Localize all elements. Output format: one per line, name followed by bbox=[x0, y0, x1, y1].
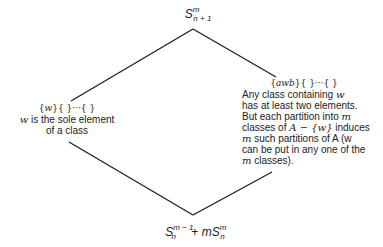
line-after: induces bbox=[333, 122, 370, 133]
right-desc-line: m such partitions of A (w bbox=[242, 133, 382, 144]
right-desc-line: can be put in any one of the bbox=[242, 144, 382, 155]
formula-base: S bbox=[185, 7, 193, 21]
line-text: classes of bbox=[242, 122, 289, 133]
set-var: awb bbox=[276, 78, 295, 88]
term2-coef: m bbox=[202, 225, 212, 239]
left-desc-line1: w is the sole element bbox=[12, 114, 122, 125]
edge-top-left bbox=[71, 29, 193, 101]
set-rest: }{ }···{ } bbox=[295, 78, 338, 88]
line-var: w bbox=[336, 89, 345, 100]
desc-text: is the sole element bbox=[28, 114, 114, 125]
term1-subscript: n bbox=[171, 232, 175, 241]
desc-var: w bbox=[20, 114, 29, 125]
line-var: A − {w} bbox=[289, 122, 332, 133]
line-text: Any class containing bbox=[242, 89, 336, 100]
right-set-notation: {awb}{ }···{ } bbox=[254, 78, 354, 89]
right-node: {awb}{ }···{ } Any class containing w ha… bbox=[242, 78, 382, 166]
edge-left-bottom bbox=[69, 142, 193, 215]
right-desc-line: m classes). bbox=[242, 155, 382, 166]
line-text: can be put in any one of the bbox=[242, 144, 365, 155]
left-node: {w}{ }···{ } w is the sole element of a … bbox=[12, 103, 122, 136]
line-text: has at least two elements. bbox=[242, 100, 358, 111]
edge-top-right bbox=[193, 29, 276, 77]
set-rest: }{ }···{ } bbox=[52, 103, 95, 113]
formula-subscript: n + 1 bbox=[193, 14, 211, 23]
right-desc-line: Any class containing w bbox=[242, 89, 382, 100]
right-desc-line: has at least two elements. bbox=[242, 100, 382, 111]
bottom-node-formula: Sm − 1n + mSmn bbox=[140, 222, 250, 242]
term2-base: S bbox=[212, 225, 220, 239]
term2-subscript: n bbox=[220, 232, 224, 241]
line-after: classes). bbox=[251, 155, 293, 166]
line-text: But each partition into bbox=[242, 111, 342, 122]
edge-right-bottom bbox=[193, 172, 272, 215]
line-after: such partitions of A (w bbox=[251, 133, 351, 144]
term2-superscript: m bbox=[220, 223, 227, 232]
right-desc-line: classes of A − {w} induces bbox=[242, 122, 382, 133]
line-var: m bbox=[342, 111, 351, 122]
right-desc-line: But each partition into m bbox=[242, 111, 382, 122]
left-set-notation: {w}{ }···{ } bbox=[12, 103, 122, 114]
top-node-formula: Smn + 1 bbox=[168, 4, 228, 24]
plus-operator: + bbox=[188, 225, 202, 239]
formula-superscript: m bbox=[193, 5, 200, 14]
left-desc-line2: of a class bbox=[12, 125, 122, 136]
